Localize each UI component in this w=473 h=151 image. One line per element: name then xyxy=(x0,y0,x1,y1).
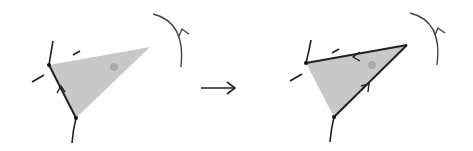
vertex xyxy=(47,63,51,67)
dash-mark xyxy=(73,51,80,55)
extension-line-top xyxy=(306,40,311,63)
transition-arrow xyxy=(201,82,235,94)
marker-dot xyxy=(111,64,118,71)
vertex xyxy=(74,116,78,120)
vertex xyxy=(332,115,336,119)
marker-dot xyxy=(369,62,376,69)
extension-line-top xyxy=(49,41,53,65)
shaded-triangle xyxy=(49,47,150,118)
dash-mark xyxy=(290,74,302,81)
extension-line-bottom xyxy=(330,117,334,142)
rotation-arc xyxy=(153,14,182,67)
rotation-arrow-icon xyxy=(179,29,189,36)
rotation-arc xyxy=(410,13,438,65)
dash-mark xyxy=(332,49,339,53)
rotation-arrow-icon xyxy=(435,28,445,35)
diagram-canvas xyxy=(0,0,473,151)
vertex xyxy=(304,61,308,65)
panel-before xyxy=(32,14,189,143)
dash-mark xyxy=(32,75,44,82)
shaded-triangle xyxy=(306,45,407,117)
extension-line-bottom xyxy=(72,118,76,143)
panel-after xyxy=(290,13,445,142)
